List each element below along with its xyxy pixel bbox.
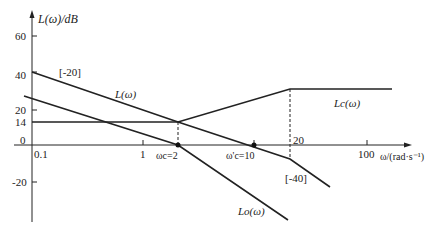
x-tick-1: 1	[140, 149, 146, 160]
lc-curve-label: Lc(ω)	[334, 98, 360, 109]
lo-curve-label: Lo(ω)	[238, 206, 265, 217]
slope-label-20: [-20]	[59, 67, 81, 78]
bode-plot	[0, 0, 434, 231]
x-axis-arrow	[404, 143, 412, 148]
wc2-marker	[252, 143, 257, 148]
slope-label-40: [-40]	[285, 173, 307, 184]
y-ticks	[32, 36, 37, 182]
y-tick-60: 60	[15, 31, 26, 42]
y-tick-40: 40	[15, 70, 26, 81]
wc2-label: ω'c=10	[226, 151, 254, 161]
y-tick-0: 0	[20, 135, 26, 146]
wc-label: ωc=2	[156, 151, 178, 161]
l-curve-label: L(ω)	[115, 89, 136, 100]
x-tick-20: 20	[293, 135, 304, 146]
y-tick-20: 20	[15, 105, 26, 116]
y-axis-arrow	[30, 10, 35, 18]
x-tick-0.1: 0.1	[34, 149, 48, 160]
wc-marker	[176, 143, 181, 148]
y-axis-label: L(ω)/dB	[38, 13, 78, 25]
x-tick-100: 100	[358, 149, 375, 160]
l-curve	[32, 72, 330, 187]
y-tick-14: 14	[15, 117, 26, 128]
y-tick-m20: -20	[12, 177, 27, 188]
x-axis-label: ω/(rad·s⁻¹)	[380, 152, 424, 162]
